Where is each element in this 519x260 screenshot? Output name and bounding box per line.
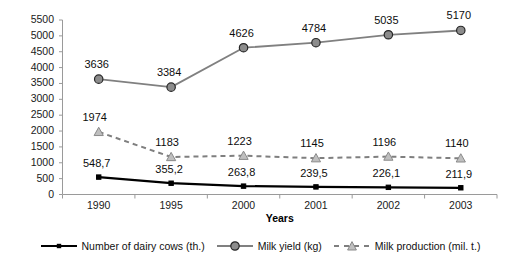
series-marker-square <box>97 175 101 179</box>
chart-legend: Number of dairy cows (th.)Milk yield (kg… <box>0 234 519 258</box>
x-axis-tick-label: 2003 <box>425 200 497 211</box>
legend-entry[interactable]: Milk production (mil. t.) <box>332 240 481 252</box>
series-marker-square <box>314 185 318 189</box>
series-marker-circle <box>167 83 175 91</box>
legend-swatch-circle <box>215 240 255 252</box>
data-point-label: 1140 <box>435 137 479 149</box>
data-point-label: 1145 <box>290 137 334 149</box>
y-axis-tick-label: 2500 <box>8 109 54 120</box>
series-marker-circle <box>457 26 465 34</box>
legend-swatch-triangle <box>332 240 372 252</box>
series-marker-square <box>241 184 245 188</box>
series-marker-square <box>459 186 463 190</box>
data-point-label: 4626 <box>220 27 264 39</box>
data-point-label: 3636 <box>75 58 119 70</box>
y-axis-tick-label: 5500 <box>8 14 54 25</box>
x-axis-ticks <box>63 195 498 199</box>
legend-label: Milk yield (kg) <box>258 240 322 252</box>
data-point-label: 5170 <box>437 9 481 21</box>
y-axis-tick-label: 4500 <box>8 46 54 57</box>
y-axis-tick-label: 2000 <box>8 125 54 136</box>
data-point-label: 5035 <box>364 14 408 26</box>
x-axis-tick-label: 2001 <box>280 200 352 211</box>
y-axis-tick-label: 3500 <box>8 77 54 88</box>
legend-entry[interactable]: Number of dairy cows (th.) <box>39 240 205 252</box>
data-point-label: 1183 <box>145 136 189 148</box>
series-marker-circle <box>95 75 103 83</box>
series-line <box>99 31 461 88</box>
chart-container: 5500500045004000350030002500200015001000… <box>0 0 519 260</box>
x-axis-tick-label: 1990 <box>63 200 135 211</box>
data-point-label: 1223 <box>218 135 262 147</box>
series-marker-square <box>386 185 390 189</box>
legend-marker-circle <box>230 242 238 250</box>
y-axis-tick-label: 1500 <box>8 141 54 152</box>
data-point-label: 548,7 <box>75 157 119 169</box>
data-point-label: 263,8 <box>220 166 264 178</box>
x-axis-tick-label: 2002 <box>352 200 424 211</box>
y-axis-tick-label: 500 <box>8 173 54 184</box>
x-axis-title: Years <box>63 212 498 224</box>
data-point-label: 4784 <box>292 22 336 34</box>
legend-marker-square <box>56 244 60 248</box>
series-marker-circle <box>384 31 392 39</box>
data-point-label: 1196 <box>362 136 406 148</box>
legend-entry[interactable]: Milk yield (kg) <box>215 240 322 252</box>
legend-label: Number of dairy cows (th.) <box>82 240 205 252</box>
data-point-label: 355,2 <box>147 163 191 175</box>
series-marker-triangle <box>94 127 103 135</box>
y-axis-ticks <box>59 20 63 195</box>
series-marker-circle <box>239 44 247 52</box>
y-axis-tick-label: 1000 <box>8 157 54 168</box>
x-axis-tick-label: 2000 <box>207 200 279 211</box>
y-axis-tick-label: 0 <box>8 189 54 200</box>
series-marker-circle <box>312 39 320 47</box>
data-point-label: 239,5 <box>292 167 336 179</box>
series-marker-square <box>169 181 173 185</box>
data-point-label: 1974 <box>73 111 117 123</box>
legend-label: Milk production (mil. t.) <box>375 240 481 252</box>
data-point-label: 211,9 <box>437 168 481 180</box>
data-point-label: 226,1 <box>364 167 408 179</box>
x-axis-tick-label: 1995 <box>135 200 207 211</box>
y-axis-tick-label: 5000 <box>8 30 54 41</box>
data-point-label: 3384 <box>147 66 191 78</box>
axes-group <box>59 20 497 199</box>
y-axis-tick-label: 3000 <box>8 93 54 104</box>
legend-swatch-small-square <box>39 240 79 252</box>
y-axis-tick-label: 4000 <box>8 62 54 73</box>
